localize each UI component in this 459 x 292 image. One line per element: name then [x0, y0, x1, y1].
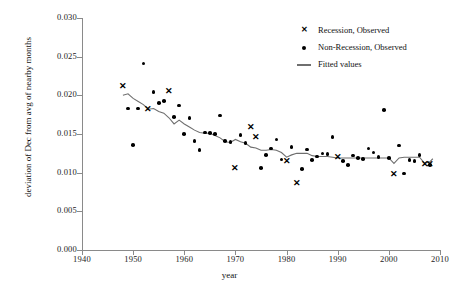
data-point-non-recession: [208, 131, 212, 135]
legend-marker-line-icon: [296, 56, 312, 72]
data-point-non-recession: [361, 157, 365, 161]
data-point-non-recession: [310, 158, 314, 162]
data-point-recession: ✕: [292, 179, 301, 188]
data-point-non-recession: [413, 159, 417, 163]
data-point-non-recession: [275, 138, 279, 142]
data-point-non-recession: [341, 159, 345, 163]
data-point-recession: ✕: [425, 160, 434, 169]
y-tick-mark: [77, 211, 82, 212]
x-tick-label: 1970: [215, 254, 255, 264]
data-point-non-recession: [182, 132, 186, 136]
y-tick-mark: [77, 173, 82, 174]
x-tick-label: 2000: [369, 254, 409, 264]
data-point-non-recession: [331, 135, 335, 139]
legend-marker-x-icon: ✕: [296, 22, 312, 38]
data-point-non-recession: [321, 152, 325, 156]
data-point-non-recession: [290, 145, 294, 149]
data-point-non-recession: [157, 101, 161, 105]
chart-legend: ✕ Recession, Observed Non-Recession, Obs…: [296, 22, 456, 73]
data-point-non-recession: [315, 155, 319, 159]
x-tick-label: 1950: [113, 254, 153, 264]
data-point-non-recession: [136, 107, 140, 111]
data-point-non-recession: [351, 154, 355, 158]
y-tick-label: 0.020: [29, 90, 77, 99]
data-point-recession: ✕: [420, 160, 429, 169]
data-point-non-recession: [269, 147, 273, 151]
data-point-non-recession: [346, 163, 350, 167]
data-point-non-recession: [239, 133, 243, 137]
data-point-non-recession: [356, 156, 360, 160]
y-tick-label: 0.005: [29, 206, 77, 215]
y-tick-label: 0.010: [29, 168, 77, 177]
data-point-non-recession: [280, 158, 284, 162]
chart-container: deviation of Dec from avg of nearby mont…: [0, 0, 459, 292]
data-point-recession: ✕: [251, 133, 260, 142]
data-point-non-recession: [372, 151, 376, 155]
data-point-recession: ✕: [389, 170, 398, 179]
y-axis-line: [82, 18, 83, 251]
data-point-non-recession: [397, 144, 401, 148]
data-point-non-recession: [305, 148, 309, 152]
data-point-non-recession: [203, 131, 207, 135]
legend-marker-dot-icon: [296, 39, 312, 55]
data-point-non-recession: [162, 99, 166, 103]
data-point-non-recession: [402, 172, 406, 176]
x-tick-label: 1980: [267, 254, 307, 264]
y-axis-title: deviation of Dec from avg of nearby mont…: [23, 0, 33, 237]
data-point-non-recession: [326, 152, 330, 156]
y-tick-mark: [77, 134, 82, 135]
y-tick-mark: [77, 18, 82, 19]
legend-label-recession: Recession, Observed: [318, 22, 389, 38]
data-point-non-recession: [382, 108, 386, 112]
data-point-non-recession: [218, 114, 222, 118]
data-point-non-recession: [229, 140, 233, 144]
legend-item-non-recession: Non-Recession, Observed: [296, 39, 456, 56]
data-point-non-recession: [188, 116, 192, 120]
y-tick-mark: [77, 57, 82, 58]
data-point-non-recession: [244, 141, 248, 145]
data-point-recession: ✕: [164, 87, 173, 96]
data-point-non-recession: [177, 104, 181, 108]
data-point-non-recession: [264, 153, 268, 157]
x-tick-label: 2010: [420, 254, 459, 264]
data-point-non-recession: [408, 158, 412, 162]
data-point-non-recession: [126, 107, 130, 111]
legend-item-recession: ✕ Recession, Observed: [296, 22, 456, 39]
data-point-recession: ✕: [246, 123, 255, 132]
legend-item-fitted: Fitted values: [296, 56, 456, 73]
x-axis-line: [82, 250, 440, 251]
data-point-recession: ✕: [144, 105, 153, 114]
x-tick-label: 1990: [318, 254, 358, 264]
data-point-non-recession: [259, 166, 263, 170]
y-tick-mark: [77, 95, 82, 96]
data-point-recession: ✕: [333, 153, 342, 162]
legend-label-non-recession: Non-Recession, Observed: [318, 39, 407, 55]
x-tick-label: 1960: [164, 254, 204, 264]
data-point-recession: ✕: [231, 164, 240, 173]
data-point-non-recession: [213, 132, 217, 136]
data-point-non-recession: [377, 155, 381, 159]
data-point-non-recession: [387, 156, 391, 160]
legend-label-fitted: Fitted values: [318, 56, 362, 72]
x-axis-title: year: [0, 270, 459, 280]
data-point-non-recession: [428, 163, 432, 167]
data-point-recession: ✕: [282, 157, 291, 166]
data-point-non-recession: [367, 147, 371, 151]
y-tick-label: 0.015: [29, 129, 77, 138]
data-point-non-recession: [193, 139, 197, 143]
data-point-non-recession: [152, 90, 156, 94]
data-point-recession: ✕: [118, 82, 127, 91]
y-tick-label: 0.000: [29, 245, 77, 254]
y-tick-label: 0.025: [29, 52, 77, 61]
data-point-non-recession: [142, 62, 146, 66]
data-point-non-recession: [418, 153, 422, 157]
data-point-non-recession: [300, 167, 304, 171]
data-point-non-recession: [223, 139, 227, 143]
x-tick-label: 1940: [62, 254, 102, 264]
data-point-non-recession: [198, 148, 202, 152]
data-point-non-recession: [131, 143, 135, 147]
y-tick-label: 0.030: [29, 13, 77, 22]
data-point-non-recession: [172, 115, 176, 119]
